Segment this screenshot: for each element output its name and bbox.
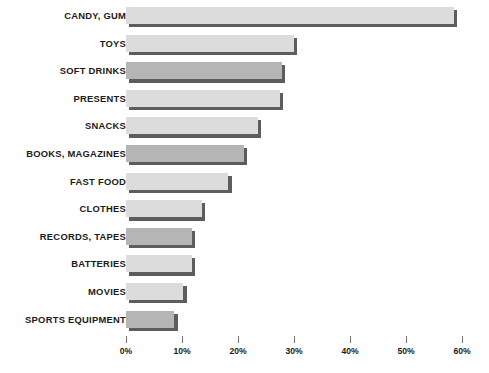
- bar: [126, 311, 178, 333]
- bar-row: PRESENTS: [0, 89, 489, 117]
- bar: [126, 145, 248, 167]
- bar-row: CANDY, GUM: [0, 6, 489, 34]
- bar-fill: [126, 173, 228, 190]
- bar-shadow-bottom: [129, 79, 285, 82]
- bar-row: BATTERIES: [0, 254, 489, 282]
- bar-shadow-bottom: [129, 245, 195, 248]
- bar-row: CLOTHES: [0, 199, 489, 227]
- bar: [126, 35, 298, 57]
- bar-shadow-bottom: [129, 300, 186, 303]
- bar: [126, 283, 187, 305]
- x-axis-tick: [294, 336, 295, 343]
- x-axis-tick-label: 50%: [386, 346, 426, 356]
- bar-row: TOYS: [0, 34, 489, 62]
- category-label: CANDY, GUM: [0, 10, 126, 21]
- bar-chart: CANDY, GUMTOYSSOFT DRINKSPRESENTSSNACKSB…: [0, 0, 489, 373]
- bar-fill: [126, 228, 192, 245]
- x-axis-tick-label: 60%: [442, 346, 482, 356]
- x-axis-tick-label: 40%: [330, 346, 370, 356]
- bar-shadow-bottom: [129, 328, 177, 331]
- bar-fill: [126, 200, 202, 217]
- bar-shadow-bottom: [129, 162, 247, 165]
- bar-row: FAST FOOD: [0, 172, 489, 200]
- bar-fill: [126, 7, 454, 24]
- category-label: CLOTHES: [0, 203, 126, 214]
- x-axis-tick: [350, 336, 351, 343]
- category-label: FAST FOOD: [0, 176, 126, 187]
- category-label: MOVIES: [0, 286, 126, 297]
- category-label: SPORTS EQUIPMENT: [0, 314, 126, 325]
- bar-row: SPORTS EQUIPMENT: [0, 310, 489, 338]
- category-label: SNACKS: [0, 120, 126, 131]
- bar-row: SNACKS: [0, 116, 489, 144]
- x-axis-tick-label: 20%: [218, 346, 258, 356]
- bar-shadow-bottom: [129, 272, 195, 275]
- x-axis-tick: [126, 336, 127, 343]
- bar: [126, 117, 262, 139]
- bar-fill: [126, 117, 258, 134]
- bar-fill: [126, 62, 282, 79]
- x-axis-tick-label: 0%: [106, 346, 146, 356]
- bar-row: BOOKS, MAGAZINES: [0, 144, 489, 172]
- bar-row: RECORDS, TAPES: [0, 227, 489, 255]
- x-axis-tick: [182, 336, 183, 343]
- x-axis: 0%10%20%30%40%50%60%: [0, 336, 489, 366]
- category-label: TOYS: [0, 38, 126, 49]
- bar-fill: [126, 145, 244, 162]
- bar-fill: [126, 283, 183, 300]
- x-axis-tick-label: 30%: [274, 346, 314, 356]
- x-axis-tick-label: 10%: [162, 346, 202, 356]
- bar: [126, 90, 284, 112]
- bar: [126, 7, 458, 29]
- bar-shadow-bottom: [129, 107, 283, 110]
- bar: [126, 173, 232, 195]
- x-axis-tick: [462, 336, 463, 343]
- category-label: RECORDS, TAPES: [0, 231, 126, 242]
- bar: [126, 228, 196, 250]
- bar-shadow-bottom: [129, 52, 297, 55]
- bar-shadow-bottom: [129, 217, 205, 220]
- category-label: PRESENTS: [0, 93, 126, 104]
- x-axis-tick: [406, 336, 407, 343]
- bar-row: SOFT DRINKS: [0, 61, 489, 89]
- bar-shadow-bottom: [129, 24, 457, 27]
- bar-fill: [126, 311, 174, 328]
- category-label: BATTERIES: [0, 258, 126, 269]
- category-label: SOFT DRINKS: [0, 65, 126, 76]
- bar-shadow-bottom: [129, 190, 231, 193]
- bar: [126, 200, 206, 222]
- category-label: BOOKS, MAGAZINES: [0, 148, 126, 159]
- bar-fill: [126, 90, 280, 107]
- bar: [126, 62, 286, 84]
- bar-fill: [126, 255, 192, 272]
- bar-shadow-bottom: [129, 134, 261, 137]
- plot-area: CANDY, GUMTOYSSOFT DRINKSPRESENTSSNACKSB…: [0, 0, 489, 373]
- bar-fill: [126, 35, 294, 52]
- x-axis-tick: [238, 336, 239, 343]
- bar-row: MOVIES: [0, 282, 489, 310]
- bar: [126, 255, 196, 277]
